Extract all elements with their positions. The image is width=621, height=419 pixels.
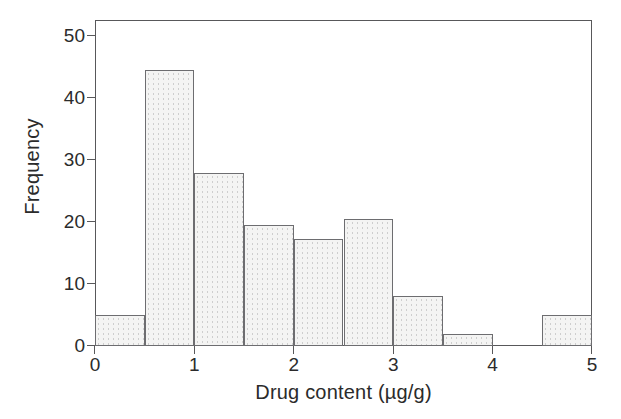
y-axis-tick-label: 20 [37,212,85,231]
y-axis-tick [87,221,95,222]
y-axis-tick-label: 0 [37,336,85,355]
x-axis-tick-label: 0 [75,355,115,374]
histogram-bar [443,334,493,346]
y-axis-tick-label: 30 [37,150,85,169]
x-axis-tick-label: 2 [274,355,314,374]
y-axis-tick-label: 10 [37,274,85,293]
x-axis-tick [492,346,493,354]
histogram-bar [294,239,344,346]
x-axis-tick [94,346,95,354]
histogram-bar [145,70,195,346]
histogram-figure: Frequency Drug content (µg/g) 0102030405… [0,0,621,419]
x-axis-tick [393,346,394,354]
histogram-bar [194,173,244,346]
x-axis-tick-label: 1 [174,355,214,374]
histogram-bar [244,225,294,346]
y-axis-tick-label: 50 [37,26,85,45]
x-axis-tick [591,346,592,354]
y-axis-tick [87,159,95,160]
x-axis-title: Drug content (µg/g) [95,381,592,404]
histogram-bar [95,315,145,346]
histogram-bar [542,315,592,346]
histogram-bar [344,219,394,346]
y-axis-tick [87,97,95,98]
x-axis-tick [293,346,294,354]
y-axis-tick [87,35,95,36]
y-axis-tick-label: 40 [37,88,85,107]
x-axis-tick [194,346,195,354]
x-axis-tick-label: 3 [373,355,413,374]
x-axis-tick-label: 5 [572,355,612,374]
y-axis-tick [87,283,95,284]
x-axis-tick-label: 4 [473,355,513,374]
histogram-bar [393,296,443,346]
